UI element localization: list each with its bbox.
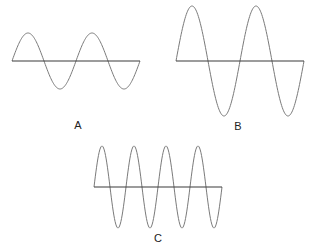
- wave-c-label: C: [154, 232, 162, 244]
- wave-c: C: [94, 146, 222, 244]
- wave-a-label: A: [74, 119, 82, 131]
- waves-diagram: A B C: [0, 0, 314, 244]
- wave-b: B: [176, 6, 304, 132]
- wave-b-label: B: [234, 120, 241, 132]
- wave-a: A: [12, 33, 140, 131]
